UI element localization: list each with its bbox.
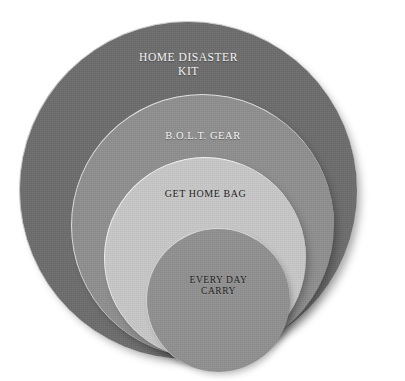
tier-label-get-home-bag: GET HOME BAG bbox=[105, 188, 306, 200]
tier-circle-every-day-carry: EVERY DAY CARRY bbox=[146, 228, 290, 372]
tier-label-bolt-gear: B.O.L.T. GEAR bbox=[72, 130, 334, 142]
nested-circles-diagram: HOME DISASTER KIT B.O.L.T. GEAR GET HOME… bbox=[0, 0, 405, 381]
tier-label-every-day-carry: EVERY DAY CARRY bbox=[147, 275, 290, 297]
tier-label-home-disaster-kit: HOME DISASTER KIT bbox=[20, 51, 357, 78]
